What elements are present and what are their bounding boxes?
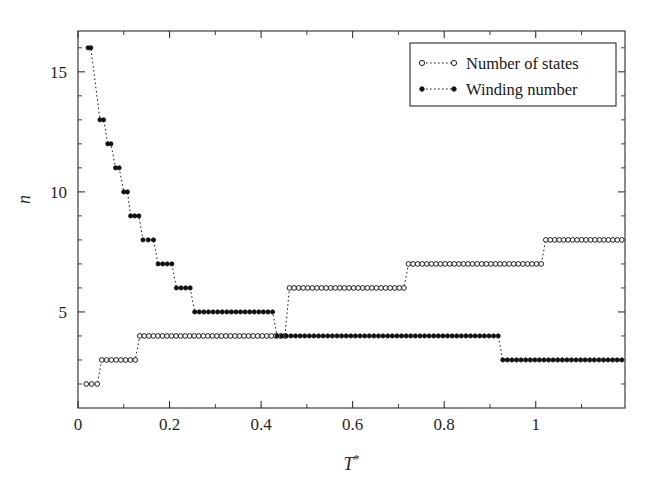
number-of-states-marker [315,286,320,291]
number-of-states-marker [557,238,562,243]
winding-number-marker [137,214,141,218]
number-of-states-marker [374,286,379,291]
number-of-states-marker [337,286,342,291]
number-of-states-marker [370,286,375,291]
number-of-states-marker [89,382,94,387]
number-of-states-marker [178,334,183,339]
winding-number-marker [468,334,472,338]
number-of-states-marker [133,358,138,363]
number-of-states-marker [539,262,544,267]
number-of-states-marker [461,262,466,267]
number-of-states-marker [534,262,539,267]
number-of-states-marker [224,334,229,339]
winding-number-marker [156,262,160,266]
winding-number-marker [409,334,413,338]
winding-number-marker [335,334,339,338]
winding-number-marker [546,358,550,362]
number-of-states-marker [479,262,484,267]
winding-number-marker [326,334,330,338]
number-of-states-marker [543,238,548,243]
winding-number-marker [211,310,215,314]
winding-number-marker [501,358,505,362]
winding-number-marker [445,334,449,338]
number-of-states-marker [205,334,210,339]
winding-number-marker [229,310,233,314]
number-of-states-marker [187,334,192,339]
number-of-states-marker [619,238,624,243]
winding-number-marker [266,310,270,314]
winding-number-marker [220,310,224,314]
number-of-states-marker [447,262,452,267]
number-of-states-marker [498,262,503,267]
winding-number-marker [234,310,238,314]
y-axis-tick-label: 5 [59,303,68,322]
number-of-states-marker [406,262,411,267]
number-of-states-marker [269,334,274,339]
number-of-states-marker [392,286,397,291]
winding-number-marker [197,310,201,314]
number-of-states-marker [137,334,142,339]
winding-number-marker [597,358,601,362]
number-of-states-marker [575,238,580,243]
number-of-states-marker [525,262,530,267]
number-of-states-marker [328,286,333,291]
winding-number-marker [556,358,560,362]
number-of-states-marker [566,238,571,243]
number-of-states-marker [493,262,498,267]
step-plot-svg: 00.20.40.60.8151015 Number of statesWind… [0,0,653,499]
number-of-states-marker [402,286,407,291]
winding-number-marker [432,334,436,338]
x-axis-tick-label: 0.4 [250,415,272,434]
number-of-states-marker [228,334,233,339]
winding-number-marker [376,334,380,338]
number-of-states-marker [123,358,128,363]
winding-number-marker [592,358,596,362]
number-of-states-marker [388,286,393,291]
number-of-states-marker [434,262,439,267]
number-of-states-marker [360,286,365,291]
number-of-states-marker [383,286,388,291]
number-of-states-marker [611,238,616,243]
winding-number-marker [551,358,555,362]
winding-number-marker [216,310,220,314]
winding-number-marker [505,358,509,362]
winding-number-marker [441,334,445,338]
number-of-states-marker [347,286,352,291]
winding-number-marker [161,262,165,266]
winding-number-marker [312,334,316,338]
winding-number-marker [275,334,279,338]
number-of-states-marker [420,262,425,267]
winding-number-marker [89,46,93,50]
number-of-states-marker [156,334,161,339]
number-of-states-marker [169,334,174,339]
winding-number-marker [542,358,546,362]
winding-number-marker [464,334,468,338]
number-of-states-marker [237,334,242,339]
number-of-states-marker [296,286,301,291]
number-of-states-marker [470,262,475,267]
winding-number-marker [183,286,187,290]
winding-number-marker [340,334,344,338]
number-of-states-marker [584,238,589,243]
winding-number-marker [574,358,578,362]
winding-number-marker [125,190,129,194]
winding-number-marker [381,334,385,338]
winding-number-marker [117,166,121,170]
winding-number-marker [583,358,587,362]
winding-number-marker [109,142,113,146]
winding-number-marker [303,334,307,338]
winding-number-marker [270,310,274,314]
winding-number-marker [459,334,463,338]
winding-number-marker [307,334,311,338]
number-of-states-marker [196,334,201,339]
winding-number-marker [482,334,486,338]
winding-number-marker [413,334,417,338]
number-of-states-marker [351,286,356,291]
winding-number-marker [261,310,265,314]
number-of-states-marker [99,358,104,363]
number-of-states-marker [114,358,119,363]
number-of-states-marker [443,262,448,267]
winding-number-marker [533,358,537,362]
winding-number-marker [202,310,206,314]
winding-number-marker [528,358,532,362]
